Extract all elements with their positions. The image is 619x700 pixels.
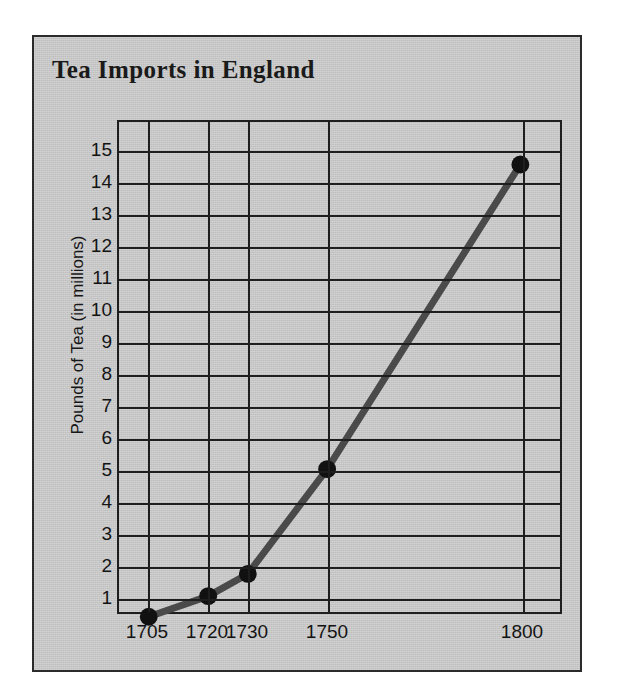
gridline-vertical: [523, 122, 525, 612]
y-tick-label: 6: [78, 427, 112, 449]
plot-area: [117, 120, 562, 614]
x-tick-label: 1720: [186, 621, 228, 643]
gridline-horizontal: [119, 311, 560, 313]
y-tick-label: 9: [78, 331, 112, 353]
gridline-vertical: [248, 122, 250, 612]
y-tick-label: 3: [78, 523, 112, 545]
y-tick-label: 1: [78, 587, 112, 609]
gridline-horizontal: [119, 471, 560, 473]
gridline-horizontal: [119, 439, 560, 441]
gridline-horizontal: [119, 599, 560, 601]
gridline-horizontal: [119, 215, 560, 217]
gridline-horizontal: [119, 535, 560, 537]
x-tick-label: 1730: [226, 621, 268, 643]
gridline-horizontal: [119, 151, 560, 153]
gridline-horizontal: [119, 567, 560, 569]
x-axis-tick-labels: 17051720173017501800: [117, 621, 562, 651]
y-tick-label: 15: [78, 139, 112, 161]
gridline-horizontal: [119, 503, 560, 505]
gridline-vertical: [208, 122, 210, 612]
y-tick-label: 7: [78, 395, 112, 417]
x-tick-label: 1750: [306, 621, 348, 643]
y-tick-label: 12: [78, 235, 112, 257]
x-tick-label: 1705: [126, 621, 168, 643]
data-point-marker: [511, 156, 529, 174]
series-line: [149, 164, 521, 616]
y-tick-label: 5: [78, 459, 112, 481]
gridline-vertical: [328, 122, 330, 612]
x-tick-label: 1800: [501, 621, 543, 643]
y-tick-label: 2: [78, 555, 112, 577]
gridline-horizontal: [119, 183, 560, 185]
y-tick-label: 10: [78, 299, 112, 321]
y-tick-label: 13: [78, 203, 112, 225]
y-tick-label: 11: [78, 267, 112, 289]
gridline-horizontal: [119, 407, 560, 409]
y-tick-label: 8: [78, 363, 112, 385]
gridline-horizontal: [119, 375, 560, 377]
gridline-horizontal: [119, 279, 560, 281]
y-tick-label: 14: [78, 171, 112, 193]
gridline-vertical: [148, 122, 150, 612]
y-axis-tick-labels: 151413121110987654321: [70, 120, 112, 614]
chart-title: Tea Imports in England: [52, 56, 315, 84]
data-series: [119, 122, 560, 612]
y-tick-label: 4: [78, 491, 112, 513]
gridline-horizontal: [119, 247, 560, 249]
gridline-horizontal: [119, 343, 560, 345]
chart-panel: Tea Imports in England Pounds of Tea (in…: [32, 35, 582, 672]
